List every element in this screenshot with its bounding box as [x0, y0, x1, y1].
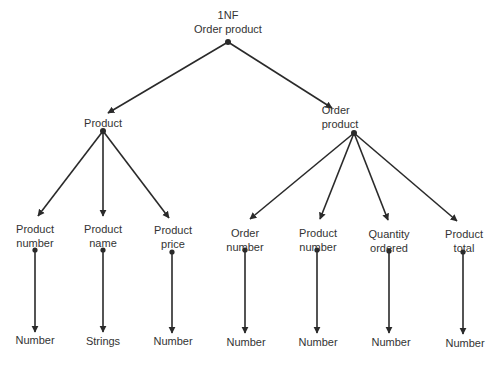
attribute-node-product-price: Product price	[154, 223, 192, 251]
type-node-quantity-ordered: Number	[371, 335, 410, 349]
attribute-label-line1: Order	[226, 226, 263, 240]
type-node-product-name: Strings	[86, 334, 120, 348]
type-node-product-number: Number	[15, 333, 54, 347]
attribute-node-order-number: Order number	[226, 226, 263, 254]
edge-product-product-price	[103, 131, 169, 218]
attribute-label-line2: number	[299, 240, 337, 254]
attribute-label-line2: number	[16, 236, 54, 250]
attribute-label-line2: total	[445, 241, 483, 255]
attribute-label-line2: price	[154, 237, 192, 251]
attribute-label-line2: name	[84, 236, 122, 250]
attribute-label-line1: Quantity	[369, 227, 410, 241]
edge-root-product	[108, 42, 228, 113]
attribute-node-product-number-2: Product number	[299, 226, 337, 254]
attribute-label-line1: Product	[299, 226, 337, 240]
attribute-label-line1: Product	[154, 223, 192, 237]
group-node-order-product: Order product	[322, 103, 359, 131]
attribute-label-line1: Product	[84, 222, 122, 236]
group-label-line2: product	[322, 117, 359, 131]
type-node-product-total: Number	[445, 336, 484, 350]
root-title: 1NF	[194, 8, 262, 22]
group-label: Product	[84, 116, 122, 130]
attribute-node-product-name: Product name	[84, 222, 122, 250]
group-node-product: Product	[84, 116, 122, 130]
edge-root-order-product	[228, 42, 332, 108]
edge-order-product-product-total	[354, 133, 457, 221]
attribute-label-line2: number	[226, 240, 263, 254]
attribute-node-product-total: Product total	[445, 227, 483, 255]
node-dot-root	[225, 39, 231, 45]
edge-order-product-order-number	[250, 133, 354, 219]
edge-order-product-product-number	[320, 133, 354, 219]
type-node-product-price: Number	[153, 334, 192, 348]
root-subtitle: Order product	[194, 22, 262, 36]
edge-order-product-quantity-ordered	[354, 133, 388, 220]
group-label-line1: Order	[322, 103, 359, 117]
type-node-product-number-2: Number	[298, 335, 337, 349]
attribute-node-product-number: Product number	[16, 222, 54, 250]
edge-product-product-number	[38, 131, 103, 216]
attribute-node-quantity-ordered: Quantity ordered	[369, 227, 410, 255]
attribute-label-line1: Product	[445, 227, 483, 241]
root-node-label: 1NF Order product	[194, 8, 262, 36]
attribute-label-line2: ordered	[369, 241, 410, 255]
attribute-label-line1: Product	[16, 222, 54, 236]
diagram-edges	[0, 0, 498, 365]
type-node-order-number: Number	[226, 335, 265, 349]
